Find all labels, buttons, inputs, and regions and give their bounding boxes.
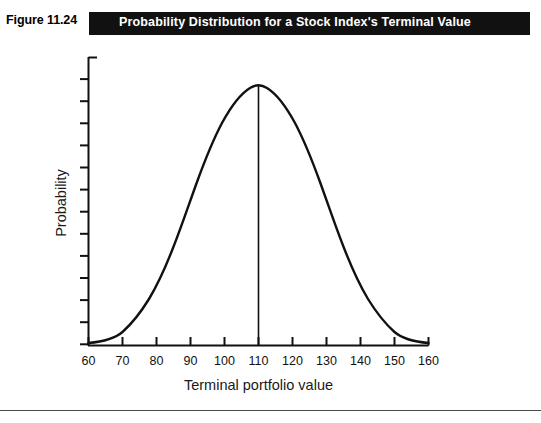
figure-number-label: Figure 11.24: [6, 13, 77, 27]
probability-distribution-chart: 60 70 80 90 100 110 120 130 140 150 160 …: [0, 40, 541, 400]
y-axis-title: Probability: [53, 168, 69, 236]
y-axis-ticks: [80, 79, 89, 344]
x-tick-label: 130: [316, 354, 337, 368]
x-tick-label: 120: [282, 354, 303, 368]
footer-divider: [0, 410, 541, 411]
x-axis-title: Terminal portfolio value: [184, 377, 333, 393]
x-tick-label: 110: [249, 354, 269, 368]
figure-title-banner: Probability Distribution for a Stock Ind…: [89, 12, 530, 35]
x-tick-label: 140: [350, 354, 371, 368]
x-tick-label: 100: [214, 354, 235, 368]
figure-title: Probability Distribution for a Stock Ind…: [119, 15, 471, 29]
x-tick-label: 90: [184, 354, 198, 368]
figure-header: Figure 11.24 Probability Distribution fo…: [0, 12, 541, 35]
x-tick-label: 70: [116, 354, 130, 368]
x-tick-label: 160: [418, 354, 439, 368]
chart-area: 60 70 80 90 100 110 120 130 140 150 160 …: [0, 40, 541, 400]
x-tick-label: 60: [82, 354, 96, 368]
figure-page: Figure 11.24 Probability Distribution fo…: [0, 0, 541, 423]
x-tick-label: 80: [150, 354, 164, 368]
x-tick-labels: 60 70 80 90 100 110 120 130 140 150 160: [82, 354, 439, 368]
y-axis: [80, 57, 97, 346]
x-tick-label: 150: [384, 354, 405, 368]
